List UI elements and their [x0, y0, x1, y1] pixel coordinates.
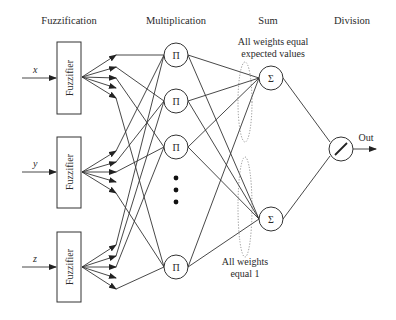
annotation-bottom-line2: equal 1 [230, 268, 259, 279]
sum-symbol: Σ [268, 214, 274, 225]
sum-node-top: Σ [259, 66, 283, 90]
output-label: Out [359, 132, 374, 143]
input-y-label: y [32, 158, 38, 169]
input-y: y [22, 158, 56, 172]
header-multiplication: Multiplication [146, 15, 207, 26]
fuzzifier-label: Fuzzifier [64, 153, 75, 190]
sum-symbol: Σ [268, 73, 274, 84]
fuzzifier-box-z: Fuzzifier [57, 232, 81, 302]
product-node-1: Π [164, 43, 188, 67]
input-z-label: z [32, 253, 37, 264]
annotation-top-line2: expected values [241, 48, 305, 59]
input-x-label: x [32, 64, 38, 75]
product-node-3: Π [164, 135, 188, 159]
fuzzy-network-diagram: Fuzzification Multiplication Sum Divisio… [0, 0, 396, 320]
header-sum: Sum [258, 15, 277, 26]
input-x: x [22, 64, 56, 78]
fuzzifier-label: Fuzzifier [64, 248, 75, 285]
header-fuzzification: Fuzzification [41, 15, 97, 26]
product-symbol: Π [172, 142, 179, 153]
fuzzifier-box-x: Fuzzifier [57, 42, 81, 114]
weights-ellipse-bottom [238, 157, 252, 257]
input-z: z [22, 253, 56, 267]
sum2-to-division-link [283, 156, 330, 219]
product-to-sum-links [188, 55, 259, 267]
sum-node-bottom: Σ [259, 207, 283, 231]
product-symbol: Π [172, 96, 179, 107]
annotation-top-line1: All weights equal [238, 36, 309, 47]
fuzzifier-fanout [82, 55, 116, 289]
product-symbol: Π [172, 50, 179, 61]
fuzzifier-box-y: Fuzzifier [57, 137, 81, 208]
division-node [329, 137, 353, 161]
product-node-n: Π [164, 255, 188, 279]
product-node-2: Π [164, 89, 188, 113]
product-symbol: Π [172, 262, 179, 273]
ellipsis-dots [174, 176, 179, 205]
fuzzifier-label: Fuzzifier [64, 59, 75, 96]
sum1-to-division-link [283, 78, 330, 142]
membership-to-product-links [116, 55, 164, 289]
header-division: Division [334, 15, 371, 26]
annotation-bottom-line1: All weights [222, 256, 268, 267]
